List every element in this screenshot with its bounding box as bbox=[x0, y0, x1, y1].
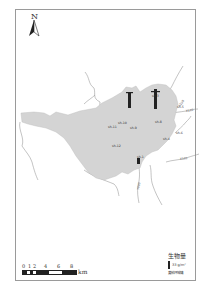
svg-text:sh-6: sh-6 bbox=[176, 131, 183, 135]
legend-row: 33 g/m² bbox=[168, 261, 198, 269]
svg-text:sh-10: sh-10 bbox=[118, 121, 127, 125]
svg-text:sh-9: sh-9 bbox=[130, 126, 137, 130]
legend-bar-icon bbox=[168, 261, 170, 269]
legend-value: 33 g/m² bbox=[172, 263, 186, 267]
svg-text:Y003: Y003 bbox=[136, 182, 141, 190]
north-arrow-icon bbox=[27, 14, 41, 40]
scale-unit: km bbox=[78, 268, 87, 275]
biomass-bar-1 bbox=[128, 92, 131, 108]
scale-bar-segments bbox=[22, 270, 77, 275]
svg-text:sh-3: sh-3 bbox=[152, 94, 159, 98]
svg-text:sh-1: sh-1 bbox=[137, 155, 144, 159]
legend: 生物量 33 g/m² 黄柏坪城镇 bbox=[168, 251, 198, 275]
svg-text:X101: X101 bbox=[180, 156, 188, 161]
svg-text:sh-8: sh-8 bbox=[155, 120, 162, 124]
legend-subtitle: 黄柏坪城镇 bbox=[168, 270, 198, 275]
scale-bar: 0 1 2 4 6 8 km bbox=[22, 263, 82, 275]
svg-text:sh-11: sh-11 bbox=[108, 125, 117, 129]
legend-title: 生物量 bbox=[168, 251, 198, 260]
svg-text:sh-4: sh-4 bbox=[163, 137, 170, 141]
map-canvas: sh-3 sh-5 sh-10 sh-11 sh-9 sh-8 sh-6 sh-… bbox=[0, 0, 210, 292]
svg-text:S108: S108 bbox=[178, 99, 186, 108]
svg-text:sh-12: sh-12 bbox=[112, 144, 121, 148]
scale-ticks: 0 1 2 4 6 8 bbox=[22, 263, 82, 269]
svg-text:X102: X102 bbox=[185, 108, 193, 113]
